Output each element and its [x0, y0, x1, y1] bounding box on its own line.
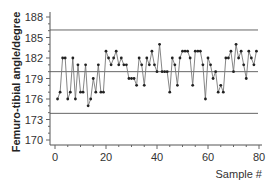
data-point — [196, 50, 199, 53]
data-point — [138, 57, 141, 60]
data-point — [255, 50, 258, 53]
data-point — [235, 43, 238, 46]
data-point — [227, 57, 230, 60]
x-tick-label: 60 — [202, 151, 214, 163]
data-point — [145, 57, 148, 60]
data-point — [161, 70, 164, 73]
y-tick-label: 176 — [25, 93, 43, 105]
data-point — [128, 77, 131, 80]
data-point — [97, 63, 100, 66]
x-ticks: 020406080 — [52, 145, 265, 163]
data-point — [245, 77, 248, 80]
data-point — [110, 63, 113, 66]
data-point — [120, 57, 123, 60]
data-point — [171, 57, 174, 60]
data-point — [191, 84, 194, 87]
data-point — [130, 77, 133, 80]
axes — [50, 12, 262, 145]
x-tick-label: 20 — [100, 151, 112, 163]
reference-lines — [50, 30, 258, 113]
series-line — [58, 44, 257, 106]
data-point — [79, 91, 82, 94]
data-point — [56, 98, 59, 101]
x-axis-title: Sample # — [216, 168, 263, 180]
data-point — [224, 57, 227, 60]
data-point — [69, 91, 72, 94]
data-point — [176, 84, 179, 87]
data-point — [189, 57, 192, 60]
data-point — [202, 63, 205, 66]
data-point — [207, 57, 210, 60]
data-point — [222, 91, 225, 94]
data-point — [140, 63, 143, 66]
data-point — [204, 98, 207, 101]
data-point — [112, 57, 115, 60]
data-point — [156, 70, 159, 73]
data-point — [253, 63, 256, 66]
data-point — [163, 70, 166, 73]
data-point — [135, 84, 138, 87]
data-point — [61, 57, 64, 60]
data-point — [168, 91, 171, 94]
data-point — [115, 50, 118, 53]
data-point — [77, 63, 80, 66]
data-point — [209, 63, 212, 66]
data-point — [74, 98, 77, 101]
data-point — [179, 57, 182, 60]
data-point — [199, 50, 202, 53]
data-point — [184, 50, 187, 53]
data-point — [143, 84, 146, 87]
data-point — [100, 91, 103, 94]
data-point — [212, 77, 215, 80]
data-point — [166, 70, 169, 73]
data-point — [107, 57, 110, 60]
y-tick-label: 185 — [25, 32, 43, 44]
data-series — [56, 43, 258, 107]
data-point — [181, 50, 184, 53]
data-point — [250, 57, 253, 60]
x-tick-label: 0 — [52, 151, 58, 163]
data-point — [59, 91, 62, 94]
data-point — [122, 63, 125, 66]
y-tick-label: 170 — [25, 134, 43, 146]
x-tick-label: 40 — [151, 151, 163, 163]
data-point — [105, 50, 108, 53]
data-point — [214, 70, 217, 73]
data-point — [151, 50, 154, 53]
data-point — [125, 63, 128, 66]
data-point — [194, 50, 197, 53]
y-tick-label: 182 — [25, 52, 43, 64]
data-point — [94, 91, 97, 94]
data-point — [237, 57, 240, 60]
x-tick-label: 80 — [253, 151, 265, 163]
data-point — [240, 50, 243, 53]
data-point — [153, 63, 156, 66]
data-point — [242, 63, 245, 66]
data-point — [71, 57, 74, 60]
data-point — [148, 63, 151, 66]
data-point — [84, 63, 87, 66]
data-point — [82, 91, 85, 94]
data-point — [64, 57, 67, 60]
data-point — [247, 50, 250, 53]
data-point — [186, 50, 189, 53]
data-point — [158, 43, 161, 46]
y-tick-label: 188 — [25, 11, 43, 23]
data-point — [230, 50, 233, 53]
data-point — [89, 98, 92, 101]
y-axis-title: Femuro-tibial angle/degree — [10, 12, 22, 153]
data-point — [87, 104, 90, 107]
y-tick-label: 173 — [25, 114, 43, 126]
data-point — [232, 70, 235, 73]
data-point — [133, 77, 136, 80]
data-point — [92, 77, 95, 80]
data-point — [219, 84, 222, 87]
y-tick-label: 179 — [25, 73, 43, 85]
y-ticks: 170173176179182185188 — [25, 11, 50, 146]
data-point — [102, 91, 105, 94]
data-point — [217, 91, 220, 94]
data-point — [173, 63, 176, 66]
data-point — [117, 63, 120, 66]
control-chart: 170173176179182185188 020406080 Femuro-t… — [0, 0, 274, 184]
data-point — [66, 98, 69, 101]
